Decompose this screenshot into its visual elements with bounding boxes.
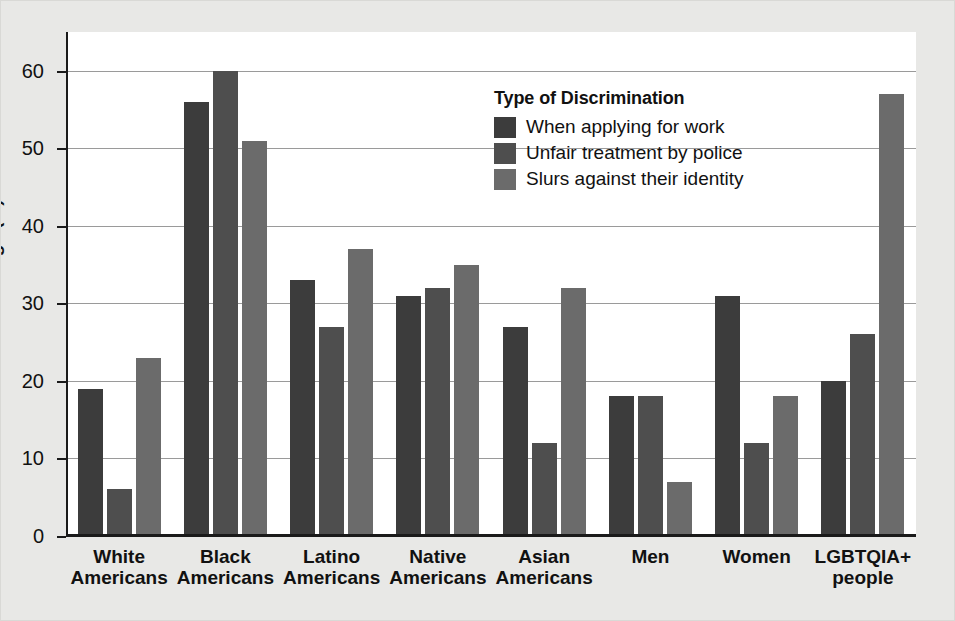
y-axis-title: Percentage (%) bbox=[0, 199, 5, 336]
bar bbox=[290, 280, 315, 536]
y-tick-mark bbox=[57, 381, 66, 383]
plot-area bbox=[66, 32, 916, 536]
bar bbox=[744, 443, 769, 536]
bar bbox=[213, 71, 238, 536]
legend-title: Type of Discrimination bbox=[494, 88, 744, 109]
legend-label: Unfair treatment by police bbox=[526, 142, 743, 164]
y-tick-label: 0 bbox=[0, 525, 44, 548]
y-tick-mark bbox=[57, 148, 66, 150]
legend-items: When applying for workUnfair treatment b… bbox=[494, 116, 744, 190]
y-tick-label: 20 bbox=[0, 369, 44, 392]
bar bbox=[850, 334, 875, 536]
bar bbox=[425, 288, 450, 536]
x-axis-label: Asian Americans bbox=[496, 546, 593, 589]
legend-swatch-icon bbox=[494, 143, 516, 164]
y-tick-mark bbox=[57, 226, 66, 228]
bar bbox=[532, 443, 557, 536]
bar bbox=[319, 327, 344, 536]
y-tick-label: 60 bbox=[0, 59, 44, 82]
legend-swatch-icon bbox=[494, 117, 516, 138]
y-tick-mark bbox=[57, 303, 66, 305]
bar bbox=[773, 396, 798, 536]
legend-swatch-icon bbox=[494, 169, 516, 190]
y-tick-mark bbox=[57, 536, 66, 538]
y-tick-mark bbox=[57, 71, 66, 73]
bar-chart-figure: 0102030405060 Percentage (%) White Ameri… bbox=[0, 0, 955, 621]
bar-group bbox=[279, 32, 385, 536]
bar bbox=[348, 249, 373, 536]
bars-layer bbox=[66, 32, 916, 536]
bar bbox=[242, 141, 267, 536]
bar bbox=[396, 296, 421, 536]
legend-item[interactable]: Unfair treatment by police bbox=[494, 142, 744, 164]
x-axis-label: Latino Americans bbox=[283, 546, 380, 589]
bar bbox=[184, 102, 209, 536]
bar bbox=[879, 94, 904, 536]
x-axis-line bbox=[66, 534, 916, 537]
legend-label: Slurs against their identity bbox=[526, 168, 744, 190]
bar bbox=[78, 389, 103, 536]
x-axis-label: Black Americans bbox=[177, 546, 274, 589]
y-tick-mark bbox=[57, 458, 66, 460]
bar bbox=[609, 396, 634, 536]
bar-group bbox=[810, 32, 916, 536]
bar bbox=[667, 482, 692, 536]
x-axis-label: Native Americans bbox=[389, 546, 486, 589]
legend-label: When applying for work bbox=[526, 116, 725, 138]
y-tick-label: 40 bbox=[0, 214, 44, 237]
legend-item[interactable]: When applying for work bbox=[494, 116, 744, 138]
bar bbox=[503, 327, 528, 536]
y-tick-label: 10 bbox=[0, 447, 44, 470]
bar-group bbox=[385, 32, 491, 536]
y-tick-label: 30 bbox=[0, 292, 44, 315]
bar bbox=[561, 288, 586, 536]
y-tick-label: 50 bbox=[0, 137, 44, 160]
bar bbox=[454, 265, 479, 536]
bar bbox=[821, 381, 846, 536]
x-axis-label: Men bbox=[631, 546, 669, 567]
legend: Type of Discrimination When applying for… bbox=[494, 88, 744, 194]
bar bbox=[107, 489, 132, 536]
x-axis-label: White Americans bbox=[71, 546, 168, 589]
bar-group bbox=[172, 32, 278, 536]
bar bbox=[136, 358, 161, 536]
bar bbox=[638, 396, 663, 536]
bar-group bbox=[66, 32, 172, 536]
x-axis-label: LGBTQIA+ people bbox=[815, 546, 912, 589]
bar bbox=[715, 296, 740, 536]
x-axis-label: Women bbox=[722, 546, 790, 567]
y-axis-line bbox=[66, 32, 68, 536]
legend-item[interactable]: Slurs against their identity bbox=[494, 168, 744, 190]
